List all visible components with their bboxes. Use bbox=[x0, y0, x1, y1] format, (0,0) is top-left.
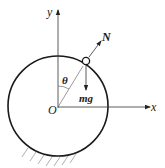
angle-label: θ bbox=[62, 74, 68, 86]
normal-force-label: N bbox=[101, 30, 112, 44]
x-axis-label: x bbox=[150, 100, 157, 114]
gravity-label: mg bbox=[79, 92, 94, 104]
free-body-diagram: y x O N mg θ bbox=[0, 0, 165, 168]
diagram-canvas: y x O N mg θ bbox=[0, 0, 165, 168]
y-axis-label: y bbox=[46, 5, 53, 19]
origin-label: O bbox=[48, 103, 57, 117]
normal-force-arrow bbox=[89, 41, 101, 57]
ground-hatching bbox=[22, 148, 76, 166]
angle-arc bbox=[58, 86, 69, 89]
ring-bead bbox=[82, 57, 89, 64]
